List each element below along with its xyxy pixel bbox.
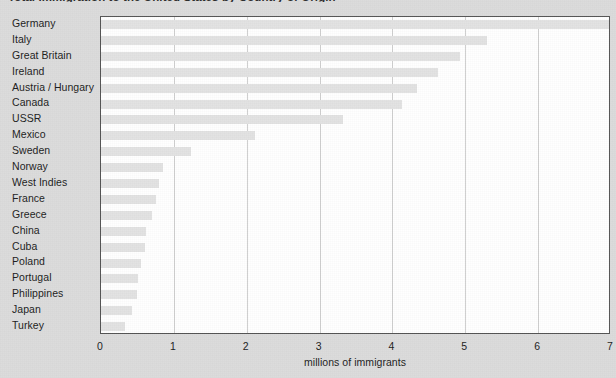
category-label: Norway: [0, 161, 88, 172]
bar-row: [101, 208, 609, 225]
category-label: Poland: [0, 256, 88, 267]
bar: [101, 68, 438, 77]
category-label: West Indies: [0, 177, 88, 188]
bar: [101, 115, 343, 124]
bar-row: [101, 128, 609, 145]
bar-row: [101, 49, 609, 66]
bar: [101, 131, 255, 140]
category-label: Great Britain: [0, 50, 88, 61]
plot-inner: [101, 17, 609, 333]
category-label: Germany: [0, 18, 88, 29]
category-label: Canada: [0, 97, 88, 108]
bar: [101, 211, 152, 220]
category-label: Japan: [0, 304, 88, 315]
bar-row: [101, 271, 609, 288]
bar: [101, 290, 137, 299]
bar: [101, 52, 460, 61]
x-tick-label: 6: [534, 340, 540, 352]
x-axis: millions of immigrants 01234567: [100, 334, 610, 378]
category-label: Austria / Hungary: [0, 82, 88, 93]
bar-row: [101, 287, 609, 304]
bar-row: [101, 97, 609, 114]
x-axis-title: millions of immigrants: [100, 356, 610, 368]
bar: [101, 20, 609, 29]
x-tick-label: 7: [607, 340, 613, 352]
category-label: China: [0, 225, 88, 236]
x-tick-label: 0: [97, 340, 103, 352]
category-label: Philippines: [0, 288, 88, 299]
category-label: Cuba: [0, 241, 88, 252]
x-tick-label: 3: [316, 340, 322, 352]
x-tick-label: 2: [243, 340, 249, 352]
category-label: Turkey: [0, 320, 88, 331]
bar-row: [101, 256, 609, 273]
bar-row: [101, 144, 609, 161]
category-axis-labels: GermanyItalyGreat BritainIrelandAustria …: [0, 16, 96, 334]
plot-area: [100, 16, 610, 334]
bar-row: [101, 33, 609, 50]
bar-row: [101, 319, 609, 333]
x-tick-label: 4: [389, 340, 395, 352]
category-label: Greece: [0, 209, 88, 220]
immigration-bar-chart: Total Immigration to the United States b…: [0, 0, 616, 378]
bar-row: [101, 17, 609, 34]
bar: [101, 195, 156, 204]
bar: [101, 322, 125, 331]
bar: [101, 84, 417, 93]
x-tick-label: 1: [170, 340, 176, 352]
bar-row: [101, 303, 609, 320]
category-label: USSR: [0, 113, 88, 124]
bar: [101, 100, 402, 109]
bar: [101, 179, 159, 188]
category-label: Italy: [0, 34, 88, 45]
bar-row: [101, 240, 609, 257]
bar: [101, 227, 146, 236]
bar-row: [101, 65, 609, 82]
bar: [101, 274, 138, 283]
category-label: Sweden: [0, 145, 88, 156]
bar: [101, 306, 132, 315]
chart-title: Total Immigration to the United States b…: [8, 0, 336, 2]
category-label: France: [0, 193, 88, 204]
category-label: Ireland: [0, 66, 88, 77]
bar-row: [101, 81, 609, 98]
bar: [101, 147, 191, 156]
category-label: Portugal: [0, 272, 88, 283]
category-label: Mexico: [0, 129, 88, 140]
bar: [101, 163, 163, 172]
bar-row: [101, 160, 609, 177]
bar: [101, 36, 487, 45]
x-tick-label: 5: [461, 340, 467, 352]
bar-row: [101, 192, 609, 209]
bar-row: [101, 176, 609, 193]
bar-row: [101, 112, 609, 129]
bar: [101, 243, 145, 252]
bar-row: [101, 224, 609, 241]
bar: [101, 259, 141, 268]
